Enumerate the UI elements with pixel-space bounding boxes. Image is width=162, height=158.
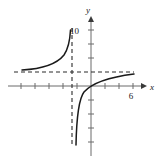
y-tick-label-10: 10 bbox=[70, 26, 80, 36]
x-axis-arrowhead bbox=[141, 83, 147, 89]
graph-canvas: 10 6 y x bbox=[0, 0, 162, 158]
y-axis-arrowhead bbox=[88, 16, 94, 22]
x-axis-label: x bbox=[149, 82, 154, 92]
y-axis-label: y bbox=[85, 5, 90, 15]
curve-left-branch bbox=[22, 30, 71, 70]
x-tick-label-6: 6 bbox=[129, 91, 134, 101]
graph-figure: 10 6 y x bbox=[0, 0, 162, 158]
